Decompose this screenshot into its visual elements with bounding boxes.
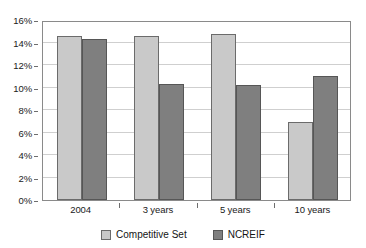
- y-axis-tick-mark: [34, 134, 38, 135]
- y-axis-tick-label: 2%: [18, 174, 32, 184]
- bar-group: [43, 22, 120, 200]
- legend-label: NCREIF: [228, 230, 265, 240]
- bar-chart-figure: 0%2%4%6%8%10%12%14%16% 20043 years5 year…: [0, 0, 366, 248]
- x-axis-tick-label: 2004: [70, 204, 91, 215]
- legend-entry: NCREIF: [213, 230, 265, 240]
- bar: [288, 122, 313, 200]
- x-axis-tick-mark: [119, 203, 120, 208]
- y-axis-tick-label: 6%: [18, 129, 32, 139]
- legend-swatch: [101, 230, 111, 240]
- y-axis-tick-mark: [34, 179, 38, 180]
- bar-group: [198, 22, 275, 200]
- y-axis-tick-mark: [34, 21, 38, 22]
- bar: [134, 36, 159, 200]
- y-axis-tick-mark: [34, 111, 38, 112]
- y-axis-tick-label: 16%: [13, 16, 32, 26]
- y-axis-tick-mark: [34, 89, 38, 90]
- y-axis-tick-label: 0%: [18, 196, 32, 206]
- y-axis: 0%2%4%6%8%10%12%14%16%: [0, 21, 38, 201]
- x-axis-tick-label: 5 years: [220, 204, 250, 215]
- y-axis-tick-label: 4%: [18, 151, 32, 161]
- y-axis-tick-label: 14%: [13, 39, 32, 49]
- x-axis-tick-label: 10 years: [295, 204, 331, 215]
- bar-group: [120, 22, 197, 200]
- bar: [313, 76, 338, 200]
- bar: [236, 85, 261, 200]
- legend-entry: Competitive Set: [101, 230, 187, 240]
- legend-label: Competitive Set: [116, 230, 187, 240]
- x-axis-tick-label: 3 years: [143, 204, 173, 215]
- y-axis-tick-mark: [34, 44, 38, 45]
- bar-group: [275, 22, 352, 200]
- bar: [57, 36, 82, 200]
- y-axis-tick-mark: [34, 66, 38, 67]
- bar: [82, 39, 107, 200]
- plot-area: [42, 21, 351, 201]
- x-axis-tick-mark: [197, 203, 198, 208]
- y-axis-tick-mark: [34, 201, 38, 202]
- legend-swatch: [213, 230, 223, 240]
- y-axis-tick-mark: [34, 156, 38, 157]
- x-axis-tick-mark: [274, 203, 275, 208]
- chart-legend: Competitive SetNCREIF: [0, 226, 366, 244]
- y-axis-tick-label: 8%: [18, 106, 32, 116]
- bar: [159, 84, 184, 200]
- x-axis: 20043 years5 years10 years: [42, 203, 351, 219]
- y-axis-tick-label: 12%: [13, 61, 32, 71]
- y-axis-tick-label: 10%: [13, 84, 32, 94]
- bar: [211, 34, 236, 201]
